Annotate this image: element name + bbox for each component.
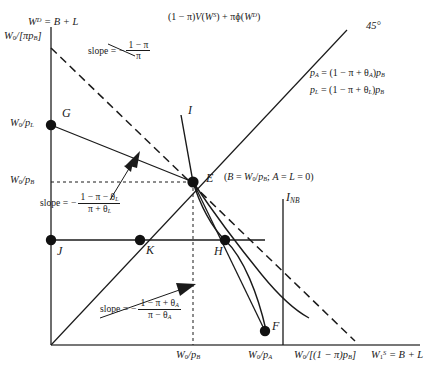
price-equation-loan: pL = (1 − π + θL)pB xyxy=(310,85,384,96)
price-equation-asset: pA = (1 − π + θA)pB xyxy=(310,68,385,79)
objective-function-label: (1 − π)V(WS) + πɸ(WD) xyxy=(168,12,260,23)
loan-budget-line-EF xyxy=(193,182,265,331)
x-tick-pb: W0/pB xyxy=(176,349,200,361)
slope-caption-budget: slope =− 1 − π π xyxy=(88,40,150,62)
y-tick-pi-pb: W0/[πpB] xyxy=(4,30,42,42)
point-label-F: F xyxy=(272,320,279,333)
point-F xyxy=(260,326,270,336)
point-label-J: J xyxy=(57,245,62,258)
x-tick-one-minus-pi-pb: W0/[(1 − π)pB] xyxy=(294,349,356,361)
slope-caption-loan: slope =− 1 − π − θL π + θL xyxy=(40,192,120,214)
y-axis-label: WD = B + L xyxy=(28,16,78,27)
point-K xyxy=(135,235,145,245)
point-G xyxy=(46,120,56,130)
point-label-K: K xyxy=(146,244,154,257)
loan-budget-line-GE xyxy=(51,125,193,182)
indifference-curve-I xyxy=(181,115,266,330)
x-axis-label: W1S = B + L xyxy=(371,349,423,361)
point-E xyxy=(187,176,198,187)
forty-five-degree-label: 45° xyxy=(366,20,381,31)
endowment-note: (B = W0/pB; A = L = 0) xyxy=(224,172,314,183)
curve-label-I-NB: INB xyxy=(286,191,300,204)
curve-label-I: I xyxy=(188,104,192,117)
figure-canvas: WD = B + L W0/[πpB] W0/pL W0/pB W0/pB W0… xyxy=(0,0,426,368)
point-label-H: H xyxy=(214,245,223,258)
forty-five-degree-line xyxy=(51,30,347,345)
point-label-G: G xyxy=(62,107,71,120)
y-tick-pb: W0/pB xyxy=(10,174,34,186)
point-label-E: E xyxy=(206,172,213,185)
y-tick-pl: W0/pL xyxy=(10,117,34,129)
point-J xyxy=(46,235,56,245)
x-tick-pa: W0/pA xyxy=(248,349,272,361)
slope-caption-asset: slope =− 1 − π + θA π − θA xyxy=(100,298,181,320)
